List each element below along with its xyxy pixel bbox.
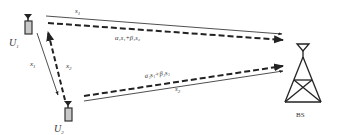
u2-label: U2 [54,123,64,135]
link-u1-u2-solid [37,33,58,95]
link-label-a1s1-b1s2: α₁s₁+β₁s₂ [115,34,141,41]
link-u1-bs-solid [46,16,282,34]
link-label-s1: s1 [75,7,80,16]
link-label-x1: x1 [29,60,36,69]
device-body-icon [25,21,32,34]
link-u2-bs-solid [84,71,283,101]
bs-label: BS [296,111,305,119]
device-body-icon [65,108,72,121]
network-diagram: U1 U2 BS s1 α₁s₁+β₁s₂ α₂s₁+β₂s₂ s2 x1 x2 [0,0,341,135]
link-label-a2s1-b2s2: α₂s₁+β₂s₂ [144,68,171,79]
base-station-tower-icon [285,44,321,102]
user-device-u2: U2 [54,101,72,135]
link-u2-bs-dashed [84,66,283,96]
user-device-u1: U1 [9,14,32,49]
u1-label: U1 [9,37,19,49]
link-label-x2: x2 [65,62,72,71]
